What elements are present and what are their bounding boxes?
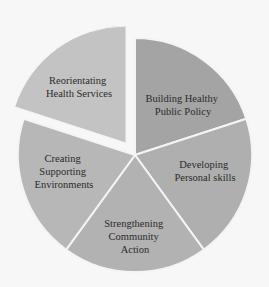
pie-chart: Building Healthy Public Policy Developin…	[0, 0, 269, 287]
